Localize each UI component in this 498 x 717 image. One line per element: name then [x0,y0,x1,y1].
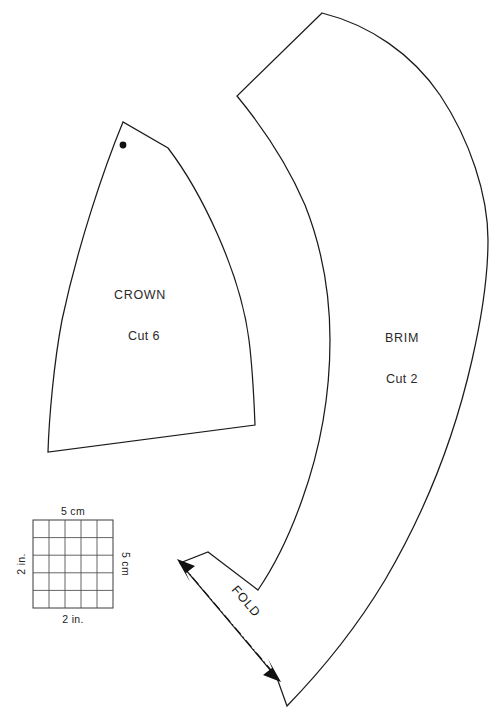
crown-label: CROWN [114,288,166,302]
brim-label: BRIM [385,331,419,345]
pattern-sheet: CROWN Cut 6 BRIM Cut 2 FOLD [0,0,498,717]
fold-label: FOLD [229,583,264,620]
scale-grid-label-right: 5 cm [120,552,132,576]
brim-piece-group[interactable]: BRIM Cut 2 [180,13,488,706]
scale-grid-frame [33,520,113,608]
pattern-drawing-canvas: CROWN Cut 6 BRIM Cut 2 FOLD [0,0,498,717]
scale-grid-group: 5 cm 2 in. 2 in. 5 cm [15,505,132,625]
scale-grid-label-top: 5 cm [61,505,85,517]
arrow-down-right-icon [263,659,281,682]
scale-grid-label-bottom: 2 in. [62,613,83,625]
brim-outline-path[interactable] [180,13,488,706]
crown-piece-group[interactable]: CROWN Cut 6 [48,122,255,452]
scale-grid-label-left: 2 in. [15,553,27,574]
crown-cut-label: Cut 6 [128,329,160,343]
crown-grain-dot-icon [120,142,127,149]
brim-cut-label: Cut 2 [386,372,418,386]
crown-outline-path[interactable] [48,122,255,452]
fold-dash-dot-line [182,565,276,676]
